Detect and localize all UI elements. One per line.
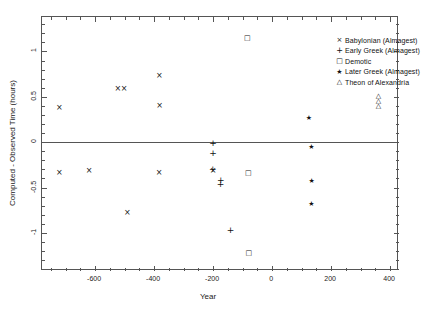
y-tick (42, 70, 45, 71)
x-tick (125, 268, 126, 271)
x-tick (169, 268, 170, 271)
data-point (244, 248, 253, 257)
y-tick (396, 151, 399, 152)
x-tick-label: 0 (269, 275, 273, 282)
square-marker-icon (334, 57, 345, 65)
y-tick (42, 24, 45, 25)
data-point (374, 91, 383, 100)
y-tick (42, 224, 45, 225)
y-tick (396, 160, 399, 161)
y-tick (396, 124, 399, 125)
legend-item: Demotic (334, 56, 425, 67)
legend-label: Later Greek (Almagest) (345, 68, 420, 75)
y-tick (42, 215, 45, 216)
x-tick (361, 268, 362, 271)
y-tick (42, 197, 45, 198)
x-tick (80, 17, 81, 20)
data-point (307, 176, 316, 185)
data-point (209, 166, 218, 175)
plus-marker-icon (334, 46, 345, 55)
y-tick (42, 51, 47, 52)
chart-legend: Babylonian (Almagest)Early Greek (Almage… (334, 35, 425, 88)
x-tick-label: -200 (205, 275, 219, 282)
y-tick (396, 178, 399, 179)
data-point (120, 84, 129, 93)
x-tick (154, 266, 155, 271)
x-tick (66, 17, 67, 20)
y-tick (42, 242, 45, 243)
x-tick (139, 17, 140, 20)
y-tick (42, 260, 45, 261)
x-tick (95, 17, 96, 22)
y-tick (396, 242, 399, 243)
x-tick (110, 268, 111, 271)
y-tick (396, 224, 399, 225)
y-tick (396, 133, 399, 134)
y-tick (42, 233, 47, 234)
data-point (113, 84, 122, 93)
x-tick (213, 17, 214, 22)
x-tick (184, 268, 185, 271)
y-tick-label: -0.5 (30, 181, 37, 193)
legend-label: Demotic (345, 58, 371, 65)
y-tick (42, 97, 47, 98)
x-tick (243, 268, 244, 271)
y-tick (396, 206, 399, 207)
x-tick (272, 266, 273, 271)
x-tick (184, 17, 185, 20)
y-tick (396, 260, 399, 261)
y-tick (396, 269, 399, 270)
y-tick (396, 106, 399, 107)
data-point (55, 103, 64, 112)
x-tick (390, 266, 391, 271)
x-axis-label: Year (200, 292, 216, 301)
legend-item: Early Greek (Almagest) (334, 46, 425, 57)
triangle-marker-icon (334, 78, 345, 86)
y-tick (396, 169, 399, 170)
y-tick (42, 42, 45, 43)
y-tick (396, 24, 399, 25)
data-point (208, 165, 217, 174)
y-tick-label: 0.5 (30, 91, 37, 101)
x-tick (272, 17, 273, 22)
x-tick (139, 268, 140, 271)
x-marker-icon (334, 36, 345, 44)
y-tick (394, 142, 399, 143)
y-tick (42, 251, 45, 252)
x-tick (302, 17, 303, 20)
x-tick (110, 17, 111, 20)
x-tick (316, 268, 317, 271)
x-tick (51, 17, 52, 20)
y-tick (42, 79, 45, 80)
y-tick-label: 1 (30, 49, 37, 53)
data-point (307, 199, 316, 208)
data-point (155, 101, 164, 110)
y-tick (42, 88, 45, 89)
y-tick (42, 151, 45, 152)
y-tick (396, 197, 399, 198)
y-tick (396, 251, 399, 252)
zero-reference-line (42, 142, 397, 143)
x-tick (287, 17, 288, 20)
x-tick (125, 17, 126, 20)
plot-area: Babylonian (Almagest)Early Greek (Almage… (41, 16, 398, 270)
y-tick (42, 169, 45, 170)
data-point (243, 33, 252, 42)
x-tick (213, 266, 214, 271)
x-tick (66, 268, 67, 271)
x-tick (375, 17, 376, 20)
data-point (307, 142, 316, 151)
y-axis-label: Computed - Observed Time (hours) (8, 80, 17, 206)
data-point (216, 180, 225, 189)
data-point (216, 176, 225, 185)
y-tick (42, 178, 45, 179)
y-tick (396, 215, 399, 216)
y-tick (42, 61, 45, 62)
data-point (155, 71, 164, 80)
data-point (155, 168, 164, 177)
x-tick (331, 266, 332, 271)
x-tick (390, 17, 391, 22)
x-tick (316, 17, 317, 20)
x-tick (346, 268, 347, 271)
